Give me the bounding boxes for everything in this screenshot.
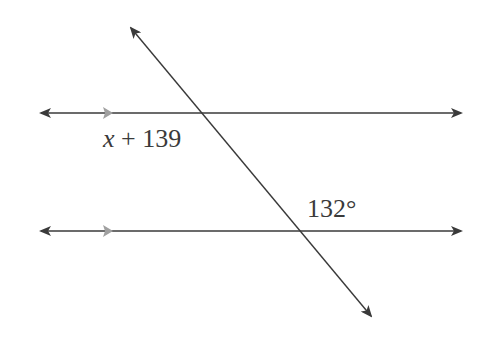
upper-angle-label: x + 139	[103, 126, 181, 152]
angle-operator: +	[121, 124, 136, 153]
transversal-line	[131, 28, 371, 316]
angle-constant: 139	[142, 124, 181, 153]
lower-angle-label: 132°	[307, 196, 356, 222]
angle-variable: x	[103, 124, 115, 153]
diagram-canvas	[0, 0, 501, 362]
